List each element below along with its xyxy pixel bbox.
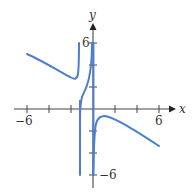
y-axis-label: y [88,8,96,22]
curve-left-branch [27,43,79,79]
x-axis-arrow-icon [169,106,176,113]
x-tick-label-max: 6 [155,114,163,128]
y-axis-arrow-icon [90,23,97,30]
curve-middle-upper [82,43,92,97]
y-tick-label-min: −6 [99,168,117,182]
curve-right-branch [93,116,159,175]
x-tick-label-min: −6 [15,114,33,128]
x-axis-label: x [179,102,186,116]
function-graph: x y −6 6 6 −6 [0,0,194,193]
y-tick-label-max: 6 [82,36,90,50]
